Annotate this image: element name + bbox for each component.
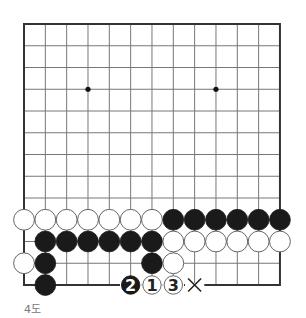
black-stone — [227, 209, 248, 230]
move-number-label: 2 — [125, 276, 136, 295]
white-stone — [227, 231, 248, 252]
black-stone — [248, 209, 269, 230]
black-stone — [142, 253, 163, 274]
white-stone — [184, 231, 205, 252]
move-number-label: 3 — [168, 276, 179, 295]
black-stone — [270, 209, 291, 230]
white-stone — [163, 253, 184, 274]
white-stone — [163, 231, 184, 252]
black-stone — [142, 231, 163, 252]
numbered-stone-1: 1 — [141, 276, 162, 295]
black-stone — [120, 231, 141, 252]
white-stone — [142, 209, 163, 230]
white-stone — [270, 231, 291, 252]
black-stone — [184, 209, 205, 230]
white-stone — [206, 231, 227, 252]
white-stone — [56, 209, 77, 230]
white-stone — [78, 209, 99, 230]
star-point-icon — [85, 87, 90, 92]
numbered-stone-3: 3 — [163, 276, 184, 295]
black-stone — [35, 275, 56, 296]
white-stone — [35, 209, 56, 230]
white-stone — [99, 209, 120, 230]
diagram-caption: 4도 — [24, 300, 41, 316]
star-point-icon — [213, 87, 218, 92]
black-stone — [35, 231, 56, 252]
white-stone — [248, 231, 269, 252]
white-stone — [14, 209, 35, 230]
black-stone — [35, 253, 56, 274]
white-stone — [14, 253, 35, 274]
black-stone — [56, 231, 77, 252]
numbered-moves-layer: 123 — [120, 276, 184, 295]
black-stone — [99, 231, 120, 252]
move-number-label: 1 — [146, 276, 157, 295]
black-stone — [163, 209, 184, 230]
numbered-stone-2: 2 — [120, 276, 141, 295]
go-board: 123 — [0, 0, 306, 300]
black-stone — [78, 231, 99, 252]
white-stone — [120, 209, 141, 230]
black-stone — [206, 209, 227, 230]
